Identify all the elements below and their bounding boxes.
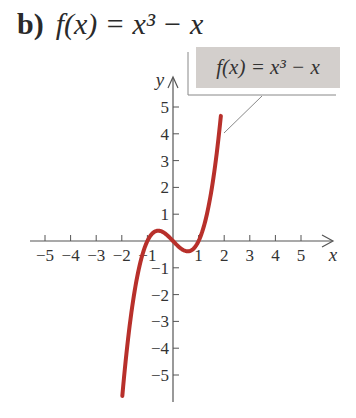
y-tick-label: −3 — [151, 312, 169, 331]
x-tick-label: −5 — [36, 246, 54, 265]
x-tick-label: 4 — [271, 246, 280, 265]
x-tick-label: 3 — [246, 246, 255, 265]
axes: −5−4−3−2−112345−5−4−3−2−112345xy — [30, 69, 338, 402]
function-curve — [122, 116, 221, 396]
y-tick-label: −2 — [151, 286, 169, 305]
y-tick-label: −1 — [151, 259, 169, 278]
x-tick-label: 2 — [220, 246, 229, 265]
y-axis-label: y — [154, 69, 165, 90]
y-tick-label: 4 — [161, 125, 170, 144]
x-tick-label: −3 — [87, 246, 105, 265]
y-tick-label: −5 — [151, 366, 169, 385]
legend-box: f(x) = x³ − x — [196, 47, 340, 88]
y-tick-label: 5 — [161, 98, 170, 117]
legend-leader-line — [224, 96, 262, 133]
x-tick-label: −2 — [113, 246, 131, 265]
y-tick-label: 2 — [161, 178, 170, 197]
y-tick-label: 3 — [161, 152, 170, 171]
x-tick-label: −4 — [62, 246, 81, 265]
x-axis-label: x — [328, 244, 338, 265]
legend-label: f(x) = x³ − x — [196, 47, 340, 88]
y-tick-label: −4 — [151, 339, 170, 358]
y-tick-label: 1 — [161, 205, 170, 224]
x-tick-label: 5 — [297, 246, 306, 265]
